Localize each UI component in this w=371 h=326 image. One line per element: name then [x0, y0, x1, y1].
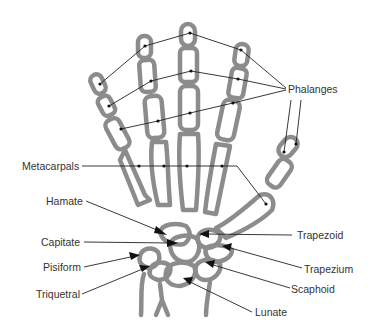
label-lunate: Lunate: [255, 306, 287, 318]
carpal-arrows: [82, 201, 302, 312]
label-hamate: Hamate: [46, 195, 83, 207]
label-pisiform: Pisiform: [43, 261, 81, 273]
ring-finger-bones: [138, 36, 170, 205]
index-finger-bones: [205, 43, 249, 214]
carpal-bones: [139, 224, 232, 286]
label-metacarpals: Metacarpals: [22, 160, 79, 172]
middle-finger-bones: [179, 24, 199, 210]
label-phalanges: Phalanges: [288, 83, 338, 95]
label-triquetral: Triquetral: [36, 288, 80, 300]
label-trapezium: Trapezium: [304, 263, 353, 275]
radius-outline: [206, 282, 210, 315]
bones: [88, 24, 300, 315]
label-capitate: Capitate: [41, 236, 80, 248]
ulna-styloid: [156, 284, 168, 315]
label-scaphoid: Scaphoid: [291, 283, 335, 295]
metacarpals-leader: [82, 164, 268, 205]
capitate-bone: [170, 236, 199, 262]
ulna-outline: [141, 274, 144, 315]
label-trapezoid: Trapezoid: [297, 229, 343, 241]
